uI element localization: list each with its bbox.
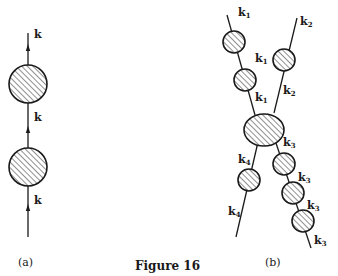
- hatched-blob: [292, 210, 314, 232]
- momentum-label-k1: k1: [238, 6, 251, 20]
- hatched-blob: [282, 182, 304, 204]
- momentum-label-k3: k3: [283, 136, 296, 150]
- momentum-label-k2: k2: [283, 84, 296, 98]
- hatched-blob: [273, 49, 295, 71]
- panel-b-caption: (b): [265, 256, 281, 269]
- arrow-up-icon: [26, 204, 30, 211]
- momentum-label-k4: k4: [238, 153, 251, 167]
- arrow-up-icon: [26, 126, 30, 133]
- figure-16: k k k (a) k1k1k1k2k2k4k4k3k3k3k3 (b) Fig…: [0, 0, 338, 276]
- momentum-label-k4: k4: [228, 205, 241, 219]
- line-k1: [227, 15, 255, 115]
- hatched-blob: [9, 65, 47, 103]
- momentum-label-k1: k1: [255, 52, 268, 66]
- hatched-blob: [273, 153, 295, 175]
- interaction-blobs: [223, 31, 314, 232]
- momentum-label: k: [34, 28, 42, 41]
- momentum-label: k: [34, 194, 42, 207]
- hatched-blob: [234, 69, 256, 91]
- momentum-label-k3: k3: [298, 171, 311, 185]
- panel-a: k k k (a): [9, 28, 47, 269]
- panel-b: k1k1k1k2k2k4k4k3k3k3k3 (b): [223, 6, 327, 269]
- momentum-label: k: [34, 111, 42, 124]
- hatched-blob: [9, 148, 47, 186]
- momentum-label-k1: k1: [255, 91, 268, 105]
- hatched-blob: [244, 114, 284, 146]
- arrow-up-icon: [26, 44, 30, 51]
- hatched-blob: [223, 31, 245, 53]
- figure-title: Figure 16: [135, 259, 200, 273]
- panel-a-caption: (a): [18, 256, 33, 269]
- momentum-label-k3: k3: [307, 199, 320, 213]
- momentum-label-k3: k3: [314, 234, 327, 248]
- hatched-blob: [238, 169, 260, 191]
- momentum-label-k2: k2: [300, 15, 313, 29]
